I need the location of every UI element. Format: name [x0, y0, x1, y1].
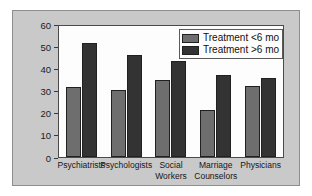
x-axis-category-line: Physicians [230, 160, 291, 171]
bar [111, 90, 126, 157]
bar-group [59, 26, 104, 157]
figure-panel: 0102030405060 Treatment <6 moTreatment >… [12, 10, 300, 186]
legend-swatch [182, 46, 199, 55]
bar [216, 75, 231, 157]
legend-item: Treatment <6 mo [182, 32, 279, 44]
bar [127, 55, 142, 157]
y-axis-tick-label: 20 [40, 109, 54, 118]
y-axis-tick-label: 30 [40, 87, 54, 96]
bar [155, 80, 170, 158]
legend-swatch [182, 34, 199, 43]
bar [66, 87, 81, 157]
legend-item: Treatment >6 mo [182, 44, 279, 56]
bar [171, 61, 186, 158]
y-axis-tick-label: 50 [40, 43, 54, 52]
chart-legend: Treatment <6 moTreatment >6 mo [179, 29, 283, 59]
x-axis-category-line: Counselors [185, 171, 246, 182]
legend-label: Treatment <6 mo [203, 33, 279, 43]
x-axis: PsychiatristsPsychologistsSocialWorkersM… [59, 160, 283, 186]
bar [82, 43, 97, 157]
y-axis-tick-label: 40 [40, 65, 54, 74]
y-axis-tick-label: 10 [40, 131, 54, 140]
legend-label: Treatment >6 mo [203, 45, 279, 55]
y-axis: 0102030405060 [13, 24, 58, 159]
y-axis-tick-label: 60 [40, 21, 54, 30]
bar-group [104, 26, 149, 157]
bar [245, 86, 260, 157]
bar [261, 78, 276, 157]
x-axis-category-label: Physicians [230, 160, 291, 171]
bar [200, 110, 215, 157]
